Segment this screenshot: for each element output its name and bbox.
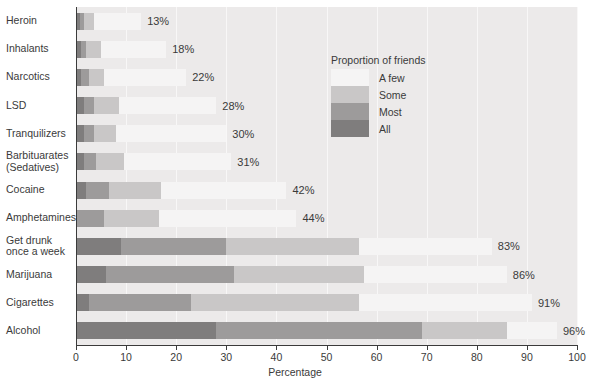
bar-segment-some (109, 182, 162, 199)
bar-segment-all (76, 97, 84, 114)
bar-value-label: 28% (222, 100, 244, 112)
x-tick-label: 0 (73, 351, 79, 363)
bar-value-label: 42% (292, 184, 314, 196)
category-label: Barbituarates(Sedatives) (6, 150, 74, 173)
legend-swatch (331, 86, 369, 103)
bar-value-label: 44% (302, 212, 324, 224)
bar-row (76, 153, 577, 170)
bar-segment-a-few (161, 182, 286, 199)
bar-segment-most (84, 125, 94, 142)
bar-segment-all (76, 294, 89, 311)
category-label-line: Cocaine (6, 184, 74, 196)
legend-swatch (331, 103, 369, 120)
bar-segment-all (76, 182, 86, 199)
bar-segment-some (94, 125, 117, 142)
category-label: Cigarettes (6, 297, 74, 309)
stacked-bar (76, 210, 296, 227)
stacked-bar (76, 238, 492, 255)
bar-segment-most (89, 294, 192, 311)
bar-segment-some (94, 97, 119, 114)
category-label: Tranquilizers (6, 128, 74, 140)
bar-segment-all (76, 266, 106, 283)
bar-value-label: 18% (172, 43, 194, 55)
legend-label: Most (379, 106, 402, 118)
category-label: Inhalants (6, 43, 74, 55)
category-label-line: Heroin (6, 15, 74, 27)
category-label: Marijuana (6, 269, 74, 281)
category-label-line: once a week (6, 246, 74, 258)
bar-segment-all (76, 153, 84, 170)
bar-value-label: 86% (513, 269, 535, 281)
bar-segment-some (86, 41, 101, 58)
x-tick-mark (577, 346, 578, 350)
legend-swatch (331, 120, 369, 137)
bar-segment-a-few (507, 322, 557, 339)
bar-value-label: 91% (538, 297, 560, 309)
bar-value-label: 31% (237, 156, 259, 168)
bar-value-label: 22% (192, 71, 214, 83)
bar-value-label: 30% (232, 128, 254, 140)
bar-segment-all (76, 125, 84, 142)
bar-row (76, 41, 577, 58)
stacked-bar (76, 97, 216, 114)
chart-root: HeroinInhalantsNarcoticsLSDTranquilizers… (0, 0, 590, 382)
bar-row (76, 97, 577, 114)
x-tick-mark (176, 346, 177, 350)
bar-segment-most (106, 266, 234, 283)
bar-row (76, 69, 577, 86)
x-tick-label: 10 (120, 351, 132, 363)
x-tick-mark (276, 346, 277, 350)
stacked-bar (76, 41, 166, 58)
bar-segment-most (84, 97, 94, 114)
legend-item: A few (331, 69, 461, 86)
x-axis-title: Percentage (0, 366, 590, 378)
category-label: Heroin (6, 15, 74, 27)
stacked-bar (76, 322, 557, 339)
bar-value-label: 13% (147, 15, 169, 27)
bar-segment-all (76, 322, 216, 339)
legend-item: All (331, 120, 461, 137)
plot-area (76, 7, 577, 345)
legend-items: A fewSomeMostAll (331, 69, 461, 137)
bar-segment-a-few (159, 210, 297, 227)
bar-row (76, 182, 577, 199)
x-tick-mark (76, 346, 77, 350)
bar-row (76, 125, 577, 142)
x-tick-label: 30 (220, 351, 232, 363)
category-label-line: Cigarettes (6, 297, 74, 309)
x-tick-label: 60 (371, 351, 383, 363)
x-tick-label: 40 (271, 351, 283, 363)
bar-segment-some (89, 69, 104, 86)
bar-segment-a-few (104, 69, 187, 86)
x-tick-label: 100 (568, 351, 586, 363)
category-label-line: Alcohol (6, 325, 74, 337)
stacked-bar (76, 266, 507, 283)
bar-segment-most (86, 182, 109, 199)
x-tick-mark (226, 346, 227, 350)
legend-label: Some (379, 89, 406, 101)
bar-segment-some (234, 266, 364, 283)
bar-segment-most (121, 238, 226, 255)
bar-row (76, 294, 577, 311)
legend-item: Most (331, 103, 461, 120)
category-label-line: (Sedatives) (6, 162, 74, 174)
stacked-bar (76, 125, 226, 142)
x-tick-label: 90 (521, 351, 533, 363)
x-tick-mark (427, 346, 428, 350)
x-tick-label: 70 (421, 351, 433, 363)
bar-segment-some (191, 294, 359, 311)
bar-segment-most (81, 69, 89, 86)
bar-segment-all (76, 238, 121, 255)
stacked-bar (76, 182, 286, 199)
legend-label: A few (379, 72, 405, 84)
x-tick-mark (477, 346, 478, 350)
bar-segment-a-few (116, 125, 226, 142)
category-label-line: Marijuana (6, 269, 74, 281)
category-label-line: LSD (6, 100, 74, 112)
stacked-bar (76, 294, 532, 311)
x-tick-mark (327, 346, 328, 350)
bar-segment-a-few (359, 294, 532, 311)
bar-segment-some (104, 210, 159, 227)
legend-label: All (379, 123, 391, 135)
x-tick-mark (377, 346, 378, 350)
